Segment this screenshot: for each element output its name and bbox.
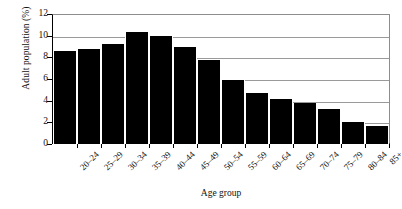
x-axis-tick	[245, 144, 246, 148]
y-axis-tick-label: 4	[43, 96, 48, 106]
x-axis-tick	[221, 144, 222, 148]
x-axis-tick-label: 35–39	[151, 150, 173, 172]
x-axis-tick	[389, 144, 390, 148]
x-axis-tick-label: 80–84	[367, 150, 389, 172]
bar-series	[53, 14, 389, 144]
y-axis-tick-label: 8	[43, 53, 48, 63]
bar	[221, 80, 245, 144]
x-axis-tick-label: 30–34	[127, 150, 149, 172]
x-axis-tick	[197, 144, 198, 148]
y-axis-tick-label: 6	[43, 74, 48, 84]
x-axis-title: Age group	[52, 188, 390, 198]
x-axis-tick	[293, 144, 294, 148]
bar	[365, 126, 389, 144]
bar	[53, 51, 77, 144]
x-axis-tick-label: 40–44	[175, 150, 197, 172]
bar	[317, 109, 341, 144]
x-axis-tick	[317, 144, 318, 148]
x-axis-tick	[269, 144, 270, 148]
y-axis-title: Adult population (%)	[21, 0, 31, 118]
x-axis-tick-label: 25–29	[103, 150, 125, 172]
x-axis-tick	[101, 144, 102, 148]
x-axis-tick-label: 55–59	[247, 150, 269, 172]
x-axis-tick-label: 20–24	[79, 150, 101, 172]
y-axis-tick-label: 12	[39, 9, 49, 19]
x-axis-tick-label: 60–64	[271, 150, 293, 172]
bar	[245, 93, 269, 144]
x-axis-tick	[149, 144, 150, 148]
y-axis-tick-label: 2	[43, 118, 48, 128]
x-axis-tick-label: 45–49	[199, 150, 221, 172]
bar	[341, 122, 365, 144]
bar	[101, 44, 125, 144]
y-axis-tick-label: 10	[39, 31, 49, 41]
x-axis-tick-label: 85+	[388, 150, 402, 166]
x-axis-tick	[125, 144, 126, 148]
x-axis-tick	[341, 144, 342, 148]
x-axis-tick-label: 50–54	[223, 150, 245, 172]
x-axis-tick	[365, 144, 366, 148]
bar	[197, 60, 221, 145]
x-axis-tick-label: 75–79	[343, 150, 365, 172]
bar	[149, 36, 173, 144]
x-axis-tick	[173, 144, 174, 148]
y-axis-tick-label: 0	[43, 139, 48, 149]
x-axis-tick	[77, 144, 78, 148]
bar	[125, 32, 149, 144]
bar	[77, 49, 101, 144]
bar-chart-figure: Adult population (%) 024681012 20–2425–2…	[0, 0, 402, 209]
x-axis-tick-label: 65–69	[295, 150, 317, 172]
x-axis-tick-label: 70–74	[319, 150, 341, 172]
bar	[173, 47, 197, 144]
bar	[293, 103, 317, 144]
bar	[269, 99, 293, 145]
